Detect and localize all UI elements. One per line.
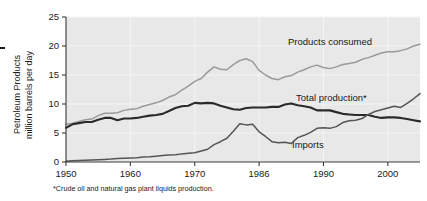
y-tick-label: 10 xyxy=(48,98,59,109)
crop-corner-mark xyxy=(0,47,5,49)
x-tick-label: 1950 xyxy=(55,168,76,179)
x-tick-label: 1990 xyxy=(313,168,334,179)
annotation-imports: Imports xyxy=(292,139,324,150)
y-tick-label: 5 xyxy=(54,127,59,138)
y-tick-label: 0 xyxy=(54,156,59,167)
x-tick-label: 1960 xyxy=(120,168,141,179)
y-axis-label-line1: Petroleum Products xyxy=(12,54,22,134)
chart-figure: 0510152025 195019601970198619902000 Petr… xyxy=(0,0,427,201)
y-tick-label: 25 xyxy=(48,11,59,22)
annotation-products-consumed: Products consumed xyxy=(288,36,372,47)
chart-footnote: *Crude oil and natural gas plant liquids… xyxy=(53,184,214,193)
x-tick-label: 1970 xyxy=(184,168,205,179)
petroleum-products-line-chart: 0510152025 195019601970198619902000 Petr… xyxy=(0,0,427,201)
y-tick-label: 20 xyxy=(48,40,59,51)
y-tick-label: 15 xyxy=(48,69,59,80)
y-axis-label-line2: million barrels per day xyxy=(24,50,34,139)
x-tick-label: 1986 xyxy=(249,168,270,179)
annotation-total-production: Total production* xyxy=(296,92,367,103)
x-tick-label: 2000 xyxy=(377,168,398,179)
